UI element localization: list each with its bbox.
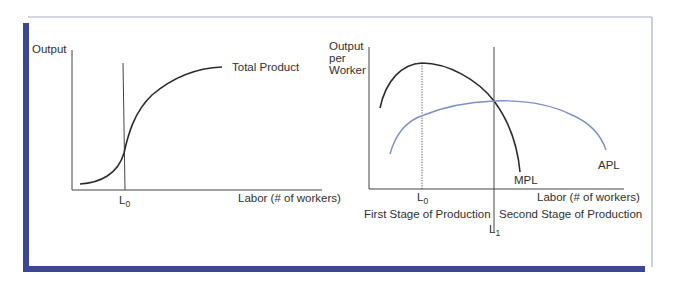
total-product-curve: [80, 67, 222, 184]
left-l0-line: [123, 63, 125, 190]
right-l1-tick-label: L1: [489, 223, 500, 238]
mpl-curve: [380, 63, 520, 172]
production-diagram: Output Total Product Labor (# of workers…: [0, 0, 678, 285]
left-x-axis-label: Labor (# of workers): [238, 192, 341, 204]
right-y-axis-label-line1: Output: [329, 40, 364, 52]
mpl-label: MPL: [514, 174, 538, 186]
total-product-chart: Output Total Product Labor (# of workers…: [32, 43, 341, 209]
l1-sub: 1: [495, 228, 500, 238]
frame-bottom-bar: [23, 266, 645, 272]
left-y-axis-label: Output: [32, 43, 67, 55]
apl-label: APL: [598, 159, 620, 171]
right-x-axis-label: Labor (# of workers): [537, 191, 640, 203]
first-stage-label: First Stage of Production: [364, 208, 491, 220]
right-l0-tick-label: L0: [417, 191, 428, 206]
right-y-axis-label-line3: Worker: [329, 64, 366, 76]
per-worker-chart: Output per Worker MPL APL Labor (# of wo…: [329, 40, 642, 238]
l0-sub: 0: [125, 199, 130, 209]
second-stage-label: Second Stage of Production: [499, 208, 642, 220]
total-product-label: Total Product: [232, 61, 300, 73]
apl-curve: [390, 101, 606, 154]
l0-sub: 0: [423, 196, 428, 206]
right-y-axis-label-line2: per: [329, 52, 346, 64]
frame-left-bar: [23, 23, 29, 272]
left-l0-tick-label: L0: [119, 194, 130, 209]
